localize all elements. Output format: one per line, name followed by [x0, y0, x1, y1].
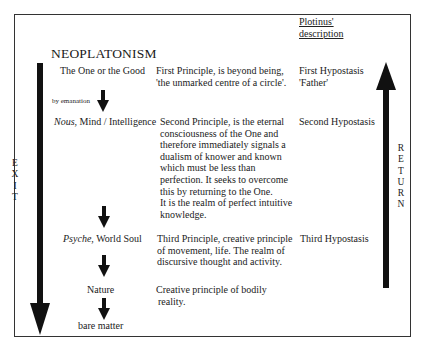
return-letter: T	[396, 166, 406, 177]
principle-line: Creative principle of bodily	[156, 284, 267, 296]
level-nature-name: Nature	[87, 284, 114, 296]
principle-line: consciousness of the One and	[160, 128, 292, 140]
level-one-plotinus-line: 'Father'	[299, 77, 328, 89]
level-one-principle-line: First Principle, is beyond being,	[156, 65, 284, 77]
level-one-plotinus-line: First Hypostasis	[299, 65, 364, 77]
down-arrow-icon	[98, 206, 110, 228]
return-label: R E T U R N	[396, 143, 406, 211]
level-nous-italic: Nous	[54, 116, 75, 127]
return-letter: E	[396, 154, 406, 165]
exit-label: E X I T	[10, 158, 20, 203]
exit-letter: X	[10, 169, 20, 180]
level-one-name: The One or the Good	[60, 65, 145, 77]
down-arrow-icon	[98, 255, 110, 277]
level-nature-principle: Creative principle of bodily reality.	[156, 284, 267, 307]
level-nous-rest: , Mind / Intelligence	[75, 116, 157, 127]
principle-line: Third Principle, creative principle	[157, 233, 293, 245]
level-bare-matter-name: bare matter	[78, 320, 123, 332]
principle-line: It is the realm of perfect intuitive	[160, 197, 292, 209]
level-nous-plotinus: Second Hypostasis	[299, 116, 375, 128]
principle-line: dualism of knower and known	[160, 151, 292, 163]
emanation-label: by emanation	[52, 97, 90, 105]
principle-line: knowledge.	[160, 209, 292, 221]
return-letter: R	[396, 143, 406, 154]
principle-line: reality.	[156, 296, 267, 308]
principle-line: of movement, life. The realm of	[157, 245, 293, 257]
principle-line: discursive thought and activity.	[157, 256, 293, 268]
exit-letter: E	[10, 158, 20, 169]
column-header-line1: Plotinus'	[299, 16, 334, 28]
return-letter: U	[396, 177, 406, 188]
principle-line: this by returning to the One.	[160, 186, 292, 198]
exit-letter: T	[10, 192, 20, 203]
level-psyche-plotinus: Third Hypostasis	[300, 233, 369, 245]
level-psyche-name: Psyche, World Soul	[63, 233, 142, 245]
principle-line: perfection. It seeks to overcome	[160, 174, 292, 186]
level-psyche-principle: Third Principle, creative principle of m…	[157, 233, 293, 268]
column-header-line2: description	[299, 28, 343, 40]
return-letter: N	[396, 199, 406, 210]
principle-line: therefore immediately signals a	[160, 139, 292, 151]
return-arrow-icon	[376, 62, 396, 288]
level-psyche-rest: , World Soul	[91, 233, 141, 244]
principle-line: which must be less than	[160, 162, 292, 174]
return-letter: R	[396, 188, 406, 199]
principle-line: Second Principle, is the eternal	[160, 116, 292, 128]
down-arrow-icon	[98, 298, 110, 320]
level-psyche-italic: Psyche	[63, 233, 91, 244]
exit-arrow-icon	[30, 63, 50, 337]
down-arrow-icon	[97, 90, 109, 112]
level-nous-principle: Second Principle, is the eternal conscio…	[160, 116, 292, 220]
diagram-title: NEOPLATONISM	[51, 46, 157, 62]
level-one-principle-line: 'the unmarked centre of a circle'.	[156, 77, 286, 89]
exit-letter: I	[10, 181, 20, 192]
level-nous-name: Nous, Mind / Intelligence	[54, 116, 156, 128]
